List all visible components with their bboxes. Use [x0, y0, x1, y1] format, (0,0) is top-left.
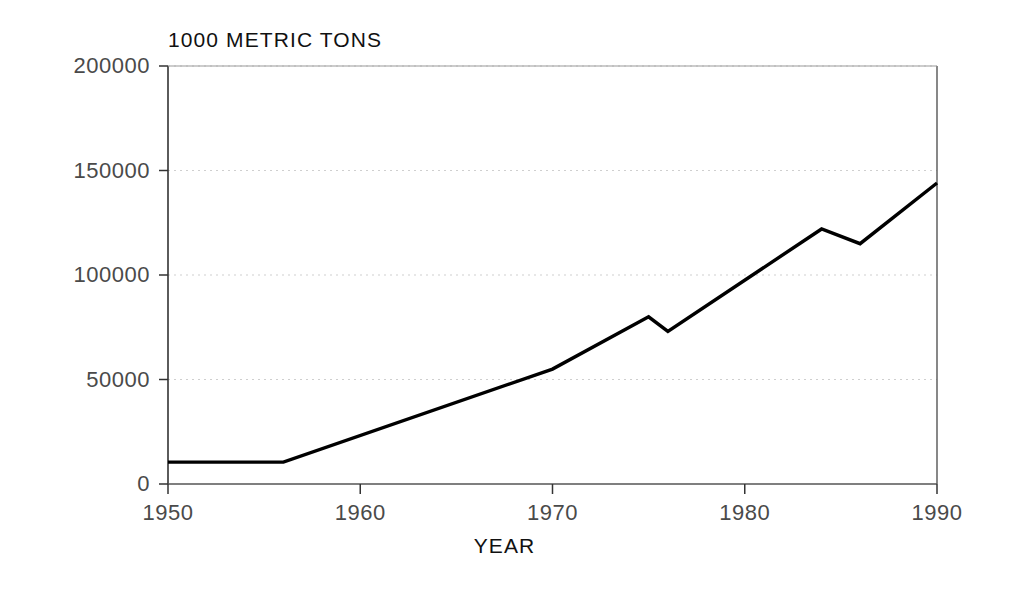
data-series-line [168, 183, 937, 462]
gridlines-group [168, 66, 937, 380]
plot-area [0, 0, 1009, 594]
x-axis-title: YEAR [0, 534, 1009, 558]
line-chart: 1000 METRIC TONS 200000 150000 100000 50… [0, 0, 1009, 594]
tick-marks-group [159, 66, 937, 494]
